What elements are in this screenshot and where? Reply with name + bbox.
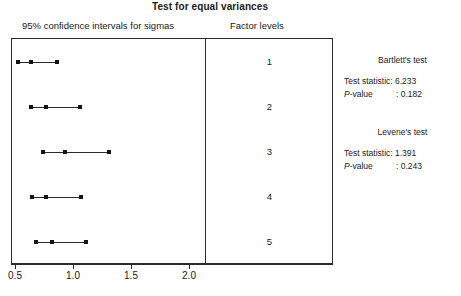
- levene-pvalue-line: P-value : 0.243: [344, 160, 461, 172]
- levene-pvalue-value: 0.243: [401, 160, 422, 172]
- levene-test-block: Levene's test Test statistic: 1.391 P-va…: [344, 126, 461, 172]
- confidence-interval-row: [12, 219, 205, 264]
- ci-marker-upper: [55, 60, 59, 64]
- ci-marker-lower: [41, 150, 45, 154]
- chart-root: Test for equal variances 95% confidence …: [0, 0, 461, 296]
- confidence-interval-line: [18, 62, 56, 63]
- ci-marker-center: [63, 150, 67, 154]
- confidence-interval-line: [31, 107, 80, 108]
- ci-marker-upper: [78, 105, 82, 109]
- factor-level-label: 2: [205, 84, 334, 129]
- chart-title: Test for equal variances: [0, 1, 420, 12]
- x-axis-tick-label: 2.0: [182, 270, 196, 281]
- x-axis-tick: [15, 264, 16, 269]
- x-axis-tick: [131, 264, 132, 269]
- ci-marker-center: [50, 240, 54, 244]
- bartlett-pvalue-line: P-value : 0.182: [344, 88, 461, 100]
- left-column-header: 95% confidence intervals for sigmas: [22, 20, 174, 31]
- bartlett-statistic-line: Test statistic: 6.233: [344, 75, 461, 87]
- confidence-interval-row: [12, 129, 205, 174]
- bartlett-test-title: Bartlett's test: [344, 54, 461, 66]
- ci-marker-lower: [30, 195, 34, 199]
- ci-marker-lower: [16, 60, 20, 64]
- x-axis-tick-label: 1.0: [66, 270, 80, 281]
- confidence-interval-row: [12, 39, 205, 84]
- x-axis-tick-label: 1.5: [124, 270, 138, 281]
- x-axis-tick: [189, 264, 190, 269]
- factor-level-label: 5: [205, 219, 334, 264]
- test-results-panel: Bartlett's test Test statistic: 6.233 P-…: [344, 54, 461, 198]
- factor-level-label: 3: [205, 129, 334, 174]
- x-axis-line: [11, 264, 333, 265]
- levene-statistic-line: Test statistic: 1.391: [344, 147, 461, 159]
- levene-test-title: Levene's test: [344, 126, 461, 138]
- confidence-interval-line: [43, 152, 109, 153]
- confidence-interval-line: [36, 242, 86, 243]
- confidence-interval-row: [12, 174, 205, 219]
- levene-statistic-value: 1.391: [395, 147, 416, 159]
- confidence-interval-line: [32, 197, 81, 198]
- ci-marker-upper: [107, 150, 111, 154]
- factor-level-label: 4: [205, 174, 334, 219]
- ci-marker-upper: [84, 240, 88, 244]
- ci-marker-lower: [29, 105, 33, 109]
- bartlett-statistic-label: Test statistic:: [344, 75, 393, 87]
- x-axis-tick-label: 0.5: [8, 270, 22, 281]
- confidence-interval-row: [12, 84, 205, 129]
- ci-marker-center: [29, 60, 33, 64]
- right-column-header: Factor levels: [230, 20, 284, 31]
- bartlett-pvalue-label: P-value: [344, 88, 396, 100]
- bartlett-test-block: Bartlett's test Test statistic: 6.233 P-…: [344, 54, 461, 100]
- ci-marker-center: [44, 195, 48, 199]
- levene-statistic-label: Test statistic:: [344, 147, 393, 159]
- ci-marker-lower: [34, 240, 38, 244]
- bartlett-statistic-value: 6.233: [395, 75, 416, 87]
- ci-marker-center: [44, 105, 48, 109]
- levene-pvalue-label: P-value: [344, 160, 396, 172]
- ci-marker-upper: [79, 195, 83, 199]
- factor-level-label: 1: [205, 39, 334, 84]
- x-axis-tick: [73, 264, 74, 269]
- bartlett-pvalue-value: 0.182: [401, 88, 422, 100]
- plot-frame: 12345: [11, 38, 333, 264]
